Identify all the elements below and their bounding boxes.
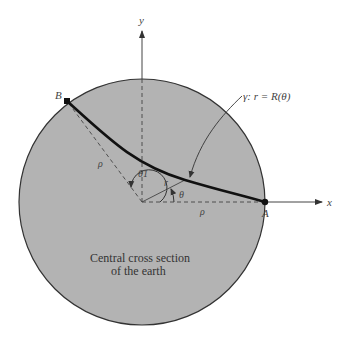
diagram-canvas: y x B A γ: r = R(θ) ρ ρ r θ θ1 Central c…	[0, 0, 349, 340]
caption-line-1: Central cross section	[90, 251, 190, 265]
theta-label: θ	[179, 189, 184, 200]
rho-left-label: ρ	[97, 158, 103, 169]
point-b-label: B	[55, 89, 62, 101]
earth-diagram: y x B A γ: r = R(θ) ρ ρ r θ θ1 Central c…	[0, 0, 349, 340]
curve-label: γ: r = R(θ)	[243, 90, 291, 103]
y-axis-label: y	[138, 14, 144, 26]
theta1-label: θ1	[138, 168, 148, 179]
point-a-label: A	[261, 207, 269, 219]
caption-line-2: of the earth	[111, 264, 166, 278]
rho-bottom-label: ρ	[199, 206, 205, 217]
point-b-marker	[64, 98, 70, 104]
point-a-marker	[262, 199, 268, 205]
r-label: r	[164, 177, 168, 188]
x-axis-label: x	[326, 196, 332, 208]
